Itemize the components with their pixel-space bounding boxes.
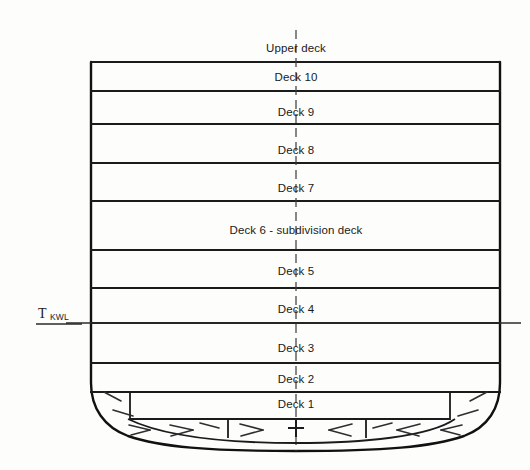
deck-label-deck-9: Deck 9 — [278, 106, 314, 118]
deck-label-deck-8: Deck 8 — [278, 144, 314, 156]
deck-label-deck-5: Deck 5 — [278, 265, 314, 277]
deck-label-upper-deck: Upper deck — [266, 42, 326, 54]
deck-label-deck-10: Deck 10 — [275, 71, 318, 83]
deck-label-deck-3: Deck 3 — [278, 342, 314, 354]
deck-label-deck-1: Deck 1 — [278, 398, 314, 410]
waterline-subscript: KWL — [50, 312, 69, 322]
waterline-label-group: T KWL — [36, 306, 82, 324]
double-bottom-inner-plating — [128, 419, 455, 443]
ship-cross-section-drawing: T KWL Upper deck Deck 10 Deck 9 Deck 8 D… — [0, 0, 530, 470]
deck-label-deck-6: Deck 6 - subdivision deck — [230, 224, 363, 236]
waterline-symbol: T — [38, 306, 47, 321]
deck-label-deck-7: Deck 7 — [278, 182, 314, 194]
ship-section-diagram: T KWL Upper deck Deck 10 Deck 9 Deck 8 D… — [0, 0, 530, 470]
deck-label-deck-4: Deck 4 — [278, 303, 315, 315]
centerline-cross-marker — [288, 420, 304, 437]
deck-label-deck-2: Deck 2 — [278, 373, 314, 385]
